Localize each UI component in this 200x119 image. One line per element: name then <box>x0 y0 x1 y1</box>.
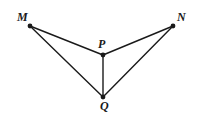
vertex-label-N: N <box>177 11 186 23</box>
vertex-point-M <box>28 24 33 29</box>
vertex-point-N <box>171 24 176 29</box>
geometry-figure: M N P Q <box>0 0 200 119</box>
vertex-label-M: M <box>17 11 28 23</box>
segment-QN <box>103 26 173 97</box>
segment-PN <box>103 26 173 55</box>
vertex-group <box>28 24 176 100</box>
segment-MP <box>30 26 103 55</box>
vertex-label-P: P <box>98 38 105 50</box>
vertex-point-P <box>101 53 106 58</box>
vertex-label-Q: Q <box>100 100 109 112</box>
segment-MQ <box>30 26 103 97</box>
